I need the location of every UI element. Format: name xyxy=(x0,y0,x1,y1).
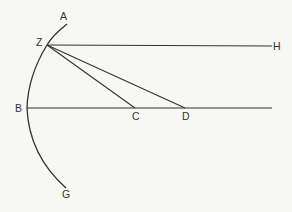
point-label-B: B xyxy=(15,102,22,114)
point-label-A: A xyxy=(60,10,67,22)
point-label-D: D xyxy=(182,110,190,122)
geometry-diagram: A Z H B C D G xyxy=(0,0,292,212)
point-label-C: C xyxy=(132,110,140,122)
point-label-G: G xyxy=(62,188,70,200)
point-label-Z: Z xyxy=(36,36,43,48)
background xyxy=(0,0,292,212)
point-label-H: H xyxy=(273,40,281,52)
